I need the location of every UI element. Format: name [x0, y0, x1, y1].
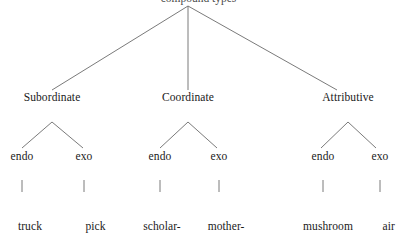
root-branch-2 — [188, 6, 337, 90]
leaf-line-1: air — [373, 219, 395, 234]
leaf-pick-pocket: pick pocket — [74, 190, 105, 237]
node-attributive-exo: exo — [372, 149, 389, 164]
fork-2-left — [321, 122, 348, 148]
fork-1-left — [160, 122, 188, 148]
node-coordinate-exo: exo — [211, 149, 228, 164]
fork-1-right — [188, 122, 217, 148]
leaf-line-1: mother- — [203, 219, 244, 234]
node-subordinate: Subordinate — [24, 90, 81, 105]
leaf-line-1: truck — [14, 219, 42, 234]
node-attributive: Attributive — [322, 90, 374, 105]
leaf-truck-driver: truck driver — [14, 190, 42, 237]
node-subordinate-exo: exo — [76, 149, 93, 164]
node-attributive-endo: endo — [312, 149, 335, 164]
leaf-line-1: scholar- — [143, 219, 181, 234]
node-coordinate: Coordinate — [162, 90, 214, 105]
node-coordinate-endo: endo — [149, 149, 172, 164]
fork-0-right — [52, 122, 83, 148]
leaf-mother-daughter: mother- daughter — [203, 190, 244, 237]
leaf-line-1: pick — [74, 219, 105, 234]
compound-type-tree-diagram: compound types Subordinate Coordinate At… — [0, 0, 397, 237]
leaf-scholar-athlete: scholar- athlete — [143, 190, 181, 237]
root-branch-0 — [52, 6, 188, 90]
leaf-mushroom-cloud: mushroom cloud — [303, 190, 353, 237]
leaf-line-1: mushroom — [303, 219, 353, 234]
node-subordinate-endo: endo — [11, 149, 34, 164]
leaf-air-head: air head — [373, 190, 395, 237]
fork-2-right — [348, 122, 376, 148]
fork-0-left — [22, 122, 52, 148]
